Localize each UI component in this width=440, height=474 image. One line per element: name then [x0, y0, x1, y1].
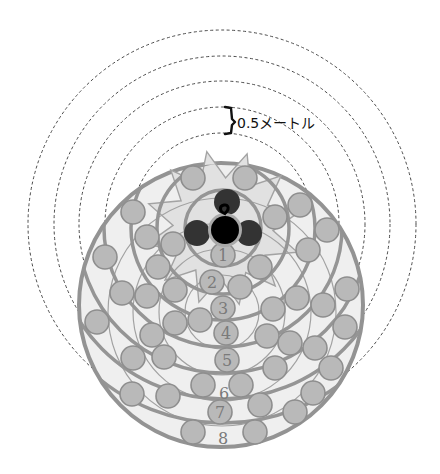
- row-label-6: 6: [219, 384, 229, 403]
- seat: [135, 225, 159, 249]
- row-label-8: 8: [218, 429, 228, 448]
- seat: [301, 381, 325, 405]
- seat: [283, 400, 307, 424]
- seat: [140, 323, 164, 347]
- row-label-1: 1: [218, 246, 228, 265]
- row-label-5: 5: [222, 351, 232, 370]
- seat: [248, 255, 272, 279]
- seat: [191, 373, 215, 397]
- seat: [121, 346, 145, 370]
- seat: [335, 277, 359, 301]
- row-label-2: 2: [207, 273, 217, 292]
- seat: [296, 238, 320, 262]
- row-label-4: 4: [221, 324, 231, 343]
- seat: [333, 315, 357, 339]
- seat: [152, 345, 176, 369]
- distance-label: 0.5メートル: [237, 115, 315, 131]
- seat: [135, 284, 159, 308]
- row-label-3: 3: [218, 299, 228, 318]
- seat: [288, 193, 312, 217]
- seat: [156, 384, 180, 408]
- seat: [233, 166, 257, 190]
- seat: [93, 245, 117, 269]
- seat: [278, 331, 302, 355]
- seat: [228, 275, 252, 299]
- seat: [285, 286, 309, 310]
- seat: [311, 293, 335, 317]
- seat: [261, 297, 285, 321]
- seat: [181, 166, 205, 190]
- seat: [85, 310, 109, 334]
- seat: [146, 255, 170, 279]
- seat: [255, 324, 279, 348]
- seat: [315, 218, 339, 242]
- seat: [163, 278, 187, 302]
- seat: [263, 356, 287, 380]
- seat: [161, 232, 185, 256]
- seat: [243, 420, 267, 444]
- seat: [188, 308, 212, 332]
- seat: [303, 336, 327, 360]
- seat: [263, 205, 287, 229]
- seat: [120, 382, 144, 406]
- bracket-icon: [225, 107, 235, 134]
- seat: [229, 373, 253, 397]
- seat: [248, 393, 272, 417]
- seat: [110, 281, 134, 305]
- seat: [163, 311, 187, 335]
- speaker: [211, 216, 239, 244]
- seating-diagram: 1 2 3 4 5 6 7 8 0.5メートル: [0, 0, 440, 474]
- row-label-7: 7: [215, 403, 225, 422]
- seat: [319, 356, 343, 380]
- seat: [121, 200, 145, 224]
- companion-left: [184, 220, 210, 246]
- seat: [181, 420, 205, 444]
